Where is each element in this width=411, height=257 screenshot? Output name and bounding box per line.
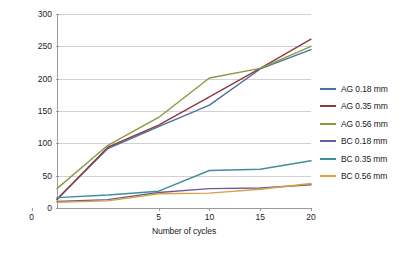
x-axis-title: Number of cycles bbox=[57, 226, 311, 236]
line-chart: Weight of dust particles (g) 05010015020… bbox=[0, 0, 411, 257]
y-tick-label: 200 bbox=[20, 75, 52, 83]
y-tick-mark bbox=[56, 143, 59, 144]
legend-swatch bbox=[320, 105, 336, 107]
legend-label: AG 0.18 mm bbox=[341, 84, 388, 94]
x-tick-label: 5 bbox=[146, 211, 172, 223]
x-axis-line bbox=[57, 208, 311, 209]
legend-label: BC 0.56 mm bbox=[341, 171, 387, 181]
series-line bbox=[57, 161, 311, 198]
y-tick-label: 300 bbox=[20, 10, 52, 18]
x-tick-mark bbox=[32, 208, 33, 211]
legend-item[interactable]: AG 0.18 mm bbox=[320, 80, 410, 98]
x-tick-label: 0 bbox=[19, 211, 45, 223]
x-axis-tick-labels: 05101520 bbox=[57, 211, 311, 225]
legend-label: AG 0.56 mm bbox=[341, 119, 388, 129]
y-tick-mark bbox=[56, 208, 59, 209]
legend-swatch bbox=[320, 88, 336, 90]
x-tick-mark bbox=[260, 208, 261, 211]
y-tick-mark bbox=[56, 46, 59, 47]
y-tick-label: 100 bbox=[20, 139, 52, 147]
legend-item[interactable]: BC 0.56 mm bbox=[320, 168, 410, 186]
x-tick-mark bbox=[209, 208, 210, 211]
y-tick-label: 50 bbox=[20, 172, 52, 180]
series-line bbox=[57, 50, 311, 199]
y-tick-mark bbox=[56, 176, 59, 177]
y-tick-mark bbox=[56, 14, 59, 15]
y-tick-label: 150 bbox=[20, 107, 52, 115]
x-tick-label: 20 bbox=[298, 211, 324, 223]
series-lines bbox=[57, 14, 311, 208]
x-tick-mark bbox=[159, 208, 160, 211]
series-line bbox=[57, 183, 311, 202]
y-tick-label: 250 bbox=[20, 42, 52, 50]
x-tick-label: 15 bbox=[247, 211, 273, 223]
y-tick-mark bbox=[56, 79, 59, 80]
legend-label: AG 0.35 mm bbox=[341, 101, 388, 111]
legend-swatch bbox=[320, 175, 336, 177]
y-tick-mark bbox=[56, 111, 59, 112]
legend-swatch bbox=[320, 123, 336, 125]
legend: AG 0.18 mmAG 0.35 mmAG 0.56 mmBC 0.18 mm… bbox=[320, 80, 410, 185]
legend-item[interactable]: BC 0.18 mm bbox=[320, 133, 410, 151]
legend-label: BC 0.35 mm bbox=[341, 154, 387, 164]
legend-swatch bbox=[320, 140, 336, 142]
legend-item[interactable]: AG 0.35 mm bbox=[320, 98, 410, 116]
legend-label: BC 0.18 mm bbox=[341, 136, 387, 146]
legend-swatch bbox=[320, 158, 336, 160]
x-tick-mark bbox=[311, 208, 312, 211]
y-axis-tick-labels: 050100150200250300 bbox=[20, 14, 52, 208]
plot-area bbox=[57, 14, 311, 208]
legend-item[interactable]: BC 0.35 mm bbox=[320, 150, 410, 168]
legend-item[interactable]: AG 0.56 mm bbox=[320, 115, 410, 133]
x-tick-label: 10 bbox=[196, 211, 222, 223]
